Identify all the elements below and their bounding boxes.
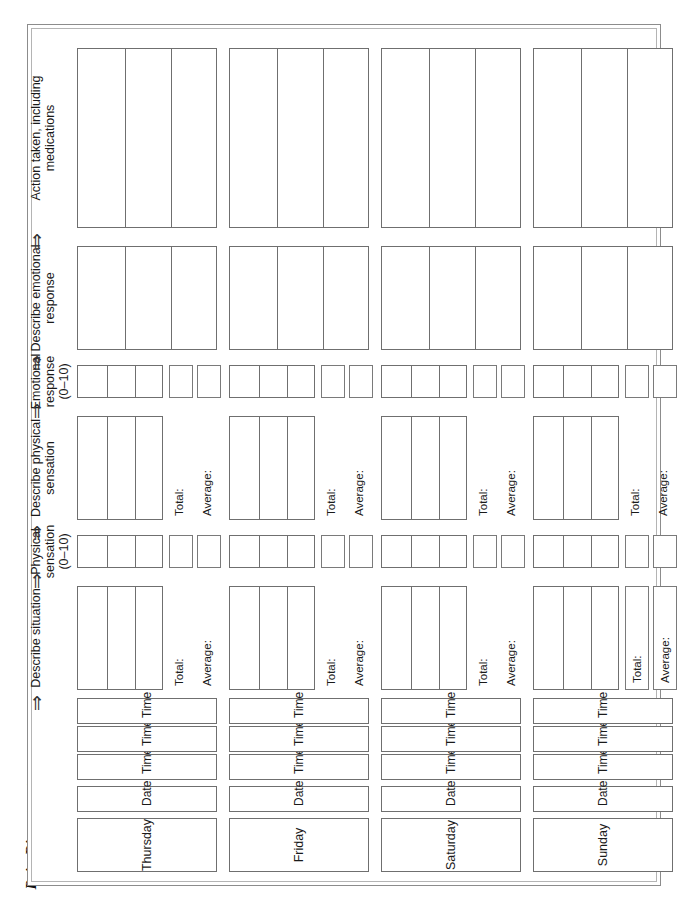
rating-group-physical-rating-sunday[interactable] xyxy=(533,535,619,568)
day-name-sunday: Sunday xyxy=(533,818,673,872)
rating-group-emotional-rating-thursday[interactable] xyxy=(77,365,163,398)
date-field-saturday[interactable]: Date: xyxy=(381,786,521,812)
rating-group-emotional-rating-saturday[interactable] xyxy=(381,365,467,398)
date-field-thursday[interactable]: Date: xyxy=(77,786,217,812)
average-box-physical-rating-friday[interactable] xyxy=(349,535,373,568)
text-group-describe-physical-friday[interactable] xyxy=(229,416,315,520)
rating-group-emotional-rating-friday[interactable] xyxy=(229,365,315,398)
time-field-thursday-3[interactable]: Time 3: xyxy=(77,698,217,724)
average-label-describe-physical-friday: Average: xyxy=(353,470,366,516)
rating-group-physical-rating-saturday[interactable] xyxy=(381,535,467,568)
time-field-thursday-1[interactable]: Time 1: xyxy=(77,754,217,780)
cell-divider xyxy=(411,587,412,689)
text-group-describe-emotional-sunday[interactable] xyxy=(533,246,673,350)
cell-divider xyxy=(107,587,108,689)
total-label-describe-situation-saturday: Total: xyxy=(477,659,490,687)
time-field-friday-2[interactable]: Time 2: xyxy=(229,726,369,752)
cell-divider xyxy=(259,536,260,567)
average-box-describe-situation-sunday[interactable]: Average: xyxy=(653,586,677,690)
text-group-describe-situation-friday[interactable] xyxy=(229,586,315,690)
rating-group-physical-rating-thursday[interactable] xyxy=(77,535,163,568)
text-group-describe-emotional-thursday[interactable] xyxy=(77,246,217,350)
time-field-saturday-1[interactable]: Time 1: xyxy=(381,754,521,780)
arrow-icon: ⇒ xyxy=(27,692,46,714)
cell-divider xyxy=(563,366,564,397)
text-group-action-taken-friday[interactable] xyxy=(229,48,369,228)
cell-divider xyxy=(563,536,564,567)
time-field-saturday-3[interactable]: Time 3: xyxy=(381,698,521,724)
time-field-friday-1[interactable]: Time 1: xyxy=(229,754,369,780)
time-field-saturday-2[interactable]: Time 2: xyxy=(381,726,521,752)
cell-divider xyxy=(429,247,430,349)
date-field-sunday[interactable]: Date: xyxy=(533,786,673,812)
time-field-sunday-3[interactable]: Time 3: xyxy=(533,698,673,724)
cell-divider xyxy=(581,247,582,349)
cell-divider xyxy=(591,417,592,519)
arrow-icon: ⇒ xyxy=(27,230,46,252)
arrow-icon: ⇒ xyxy=(27,570,46,592)
cell-divider xyxy=(125,49,126,227)
time-field-friday-3[interactable]: Time 3: xyxy=(229,698,369,724)
text-group-describe-situation-thursday[interactable] xyxy=(77,586,163,690)
text-group-describe-emotional-saturday[interactable] xyxy=(381,246,521,350)
total-box-physical-rating-thursday[interactable] xyxy=(169,535,193,568)
rating-group-physical-rating-friday[interactable] xyxy=(229,535,315,568)
cell-divider xyxy=(277,247,278,349)
cell-divider xyxy=(171,49,172,227)
cell-divider xyxy=(563,587,564,689)
average-box-emotional-rating-saturday[interactable] xyxy=(501,365,525,398)
time-field-thursday-2[interactable]: Time 2: xyxy=(77,726,217,752)
cell-divider xyxy=(135,587,136,689)
cell-divider xyxy=(277,49,278,227)
day-name-label: Friday xyxy=(292,828,306,863)
text-group-action-taken-thursday[interactable] xyxy=(77,48,217,228)
text-group-describe-physical-thursday[interactable] xyxy=(77,416,163,520)
cell-divider xyxy=(287,366,288,397)
average-box-physical-rating-saturday[interactable] xyxy=(501,535,525,568)
cell-divider xyxy=(107,417,108,519)
date-label: Date: xyxy=(444,777,458,806)
cell-divider xyxy=(287,536,288,567)
total-box-physical-rating-sunday[interactable] xyxy=(625,535,649,568)
cell-divider xyxy=(411,417,412,519)
time-field-sunday-1[interactable]: Time 1: xyxy=(533,754,673,780)
total-box-emotional-rating-friday[interactable] xyxy=(321,365,345,398)
text-group-describe-situation-saturday[interactable] xyxy=(381,586,467,690)
average-box-emotional-rating-friday[interactable] xyxy=(349,365,373,398)
cell-divider xyxy=(171,247,172,349)
cell-divider xyxy=(259,587,260,689)
total-box-physical-rating-saturday[interactable] xyxy=(473,535,497,568)
rating-group-emotional-rating-sunday[interactable] xyxy=(533,365,619,398)
date-label: Date: xyxy=(596,777,610,806)
average-label-describe-physical-thursday: Average: xyxy=(201,470,214,516)
total-box-emotional-rating-sunday[interactable] xyxy=(625,365,649,398)
average-box-physical-rating-sunday[interactable] xyxy=(653,535,677,568)
text-group-describe-emotional-friday[interactable] xyxy=(229,246,369,350)
date-label: Date: xyxy=(140,777,154,806)
text-group-describe-physical-saturday[interactable] xyxy=(381,416,467,520)
time-field-sunday-2[interactable]: Time 2: xyxy=(533,726,673,752)
total-box-emotional-rating-thursday[interactable] xyxy=(169,365,193,398)
total-label-describe-situation-thursday: Total: xyxy=(173,659,186,687)
total-label-describe-physical-saturday: Total: xyxy=(477,489,490,517)
cell-divider xyxy=(439,366,440,397)
cell-divider xyxy=(287,417,288,519)
arrow-icon: ⇒ xyxy=(27,352,46,374)
total-box-describe-situation-sunday[interactable]: Total: xyxy=(625,586,649,690)
text-group-action-taken-saturday[interactable] xyxy=(381,48,521,228)
text-group-describe-situation-sunday[interactable] xyxy=(533,586,619,690)
total-box-physical-rating-friday[interactable] xyxy=(321,535,345,568)
total-box-emotional-rating-saturday[interactable] xyxy=(473,365,497,398)
average-box-emotional-rating-sunday[interactable] xyxy=(653,365,677,398)
average-label-describe-situation-thursday: Average: xyxy=(201,640,214,686)
average-label-describe-situation-friday: Average: xyxy=(353,640,366,686)
text-group-action-taken-sunday[interactable] xyxy=(533,48,673,228)
text-group-describe-physical-sunday[interactable] xyxy=(533,416,619,520)
cell-divider xyxy=(107,366,108,397)
average-box-emotional-rating-thursday[interactable] xyxy=(197,365,221,398)
total-label-describe-physical-friday: Total: xyxy=(325,489,338,517)
date-field-friday[interactable]: Date: xyxy=(229,786,369,812)
average-box-physical-rating-thursday[interactable] xyxy=(197,535,221,568)
day-name-friday: Friday xyxy=(229,818,369,872)
cell-divider xyxy=(627,49,628,227)
